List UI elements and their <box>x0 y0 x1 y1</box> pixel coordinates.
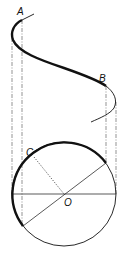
label-A: A <box>16 6 24 17</box>
label-O: O <box>64 197 72 208</box>
curve-thin-bottom <box>91 86 116 122</box>
curve-thin-top <box>22 14 34 20</box>
curve-thick-AB <box>12 20 106 86</box>
radius-CO <box>34 157 64 194</box>
label-C: C <box>26 147 34 158</box>
diagonal-diameter <box>23 163 106 226</box>
label-B: B <box>99 73 106 84</box>
diagram-canvas: A B C O <box>0 0 122 266</box>
